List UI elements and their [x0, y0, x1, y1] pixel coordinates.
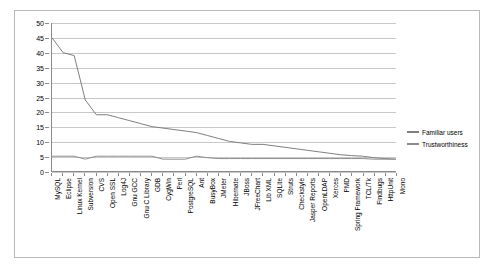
plot-area — [51, 23, 396, 172]
legend-color-swatch — [407, 131, 419, 133]
x-axis-tick-mark — [385, 173, 386, 176]
y-axis-tick-mark — [45, 83, 49, 84]
y-axis-tick-mark — [45, 172, 49, 173]
series-line — [52, 38, 396, 159]
x-axis-tick-label: Jasper Reports — [309, 178, 316, 222]
x-axis-tick-label: MySQL — [54, 178, 61, 200]
legend-item[interactable]: Familiar users — [407, 127, 487, 137]
x-axis-tick-mark — [296, 173, 297, 176]
x-axis-tick-mark — [374, 173, 375, 176]
x-axis-tick-mark — [96, 173, 97, 176]
x-axis-tick-mark — [229, 173, 230, 176]
x-axis-tick-mark — [140, 173, 141, 176]
y-axis-tick-label: 20 — [36, 109, 44, 116]
x-axis-tick-label: PMD — [343, 178, 350, 192]
y-axis-tick-label: 45 — [36, 34, 44, 41]
x-axis-tick-mark — [251, 173, 252, 176]
x-axis-tick-label: Subversion — [87, 178, 94, 211]
x-axis-tick-mark — [363, 173, 364, 176]
x-axis-tick-label: Ant — [198, 178, 205, 188]
x-axis-tick-label: Lib XML — [265, 178, 272, 202]
x-axis-tick-label: TCL/Tk — [365, 178, 372, 199]
y-axis-tick-label: 10 — [36, 139, 44, 146]
legend-item[interactable]: Trustworthiness — [407, 139, 487, 149]
y-axis-tick-mark — [45, 53, 49, 54]
x-axis-tick-mark — [196, 173, 197, 176]
y-axis-tick-label: 40 — [36, 49, 44, 56]
x-axis-tick-label: Gnu GCC — [131, 178, 138, 207]
y-axis-tick-mark — [45, 23, 49, 24]
x-axis-tick-label: Open SSL — [109, 178, 116, 208]
y-axis: 50454035302520151050 — [15, 23, 49, 172]
x-axis-tick-mark — [162, 173, 163, 176]
x-axis-tick-label: Hibernate — [232, 178, 239, 206]
chart-legend: Familiar usersTrustworthiness — [407, 127, 487, 151]
x-axis-tick-label: JBoss — [243, 178, 250, 196]
y-axis-tick-label: 30 — [36, 79, 44, 86]
legend-label: Familiar users — [422, 129, 463, 136]
x-axis-tick-label: CygWin — [165, 178, 172, 201]
x-axis-tick-label: Linux Kernel — [76, 178, 83, 214]
x-axis-tick-mark — [329, 173, 330, 176]
y-axis-tick-mark — [45, 157, 49, 158]
x-axis: MySQLEclipseLinux KernelSubversionCVSOpe… — [51, 173, 396, 253]
x-axis-tick-label: Checkstyle — [298, 178, 305, 210]
x-axis-tick-label: HttpUnit — [387, 178, 394, 201]
y-axis-tick-label: 5 — [40, 154, 44, 161]
legend-color-swatch — [407, 143, 419, 145]
x-axis-tick-label: Mono — [399, 178, 406, 194]
x-axis-tick-mark — [318, 173, 319, 176]
x-axis-tick-mark — [340, 173, 341, 176]
y-axis-tick-mark — [45, 142, 49, 143]
x-axis-tick-label: OpenLDAP — [321, 178, 328, 211]
x-axis-tick-mark — [240, 173, 241, 176]
x-axis-tick-mark — [351, 173, 352, 176]
x-axis-tick-label: CVS — [98, 178, 105, 191]
x-axis-tick-mark — [173, 173, 174, 176]
x-axis-tick-label: Gnu C Library — [143, 178, 150, 218]
y-axis-tick-label: 50 — [36, 20, 44, 27]
y-axis-tick-label: 25 — [36, 94, 44, 101]
x-axis-tick-label: Struts — [287, 178, 294, 195]
y-axis-tick-mark — [45, 127, 49, 128]
legend-label: Trustworthiness — [422, 141, 468, 148]
y-axis-tick-mark — [45, 112, 49, 113]
series-line — [52, 156, 396, 159]
series-lines — [52, 23, 396, 171]
y-axis-tick-label: 15 — [36, 124, 44, 131]
x-axis-tick-mark — [151, 173, 152, 176]
x-axis-tick-label: SQLite — [276, 178, 283, 198]
x-axis-tick-mark — [274, 173, 275, 176]
x-axis-tick-mark — [285, 173, 286, 176]
x-axis-tick-label: JFreeChart — [254, 178, 261, 211]
x-axis-tick-label: JMeter — [220, 178, 227, 198]
y-axis-tick-label: 0 — [40, 169, 44, 176]
x-axis-tick-label: Spring Framework — [354, 178, 361, 231]
x-axis-tick-mark — [118, 173, 119, 176]
x-axis-tick-mark — [207, 173, 208, 176]
x-axis-tick-label: Perl — [176, 178, 183, 190]
y-axis-tick-mark — [45, 38, 49, 39]
x-axis-tick-mark — [307, 173, 308, 176]
x-axis-tick-mark — [218, 173, 219, 176]
y-axis-tick-mark — [45, 68, 49, 69]
x-axis-tick-mark — [107, 173, 108, 176]
x-axis-tick-mark — [185, 173, 186, 176]
x-axis-tick-label: Findbugs — [376, 178, 383, 205]
x-axis-tick-label: Eclipse — [65, 178, 72, 199]
x-axis-tick-mark — [396, 173, 397, 176]
x-axis-tick-mark — [262, 173, 263, 176]
x-axis-tick-label: PostgreSQL — [187, 178, 194, 213]
x-axis-tick-mark — [51, 173, 52, 176]
y-axis-tick-label: 35 — [36, 64, 44, 71]
x-axis-tick-mark — [84, 173, 85, 176]
x-axis-tick-mark — [129, 173, 130, 176]
y-axis-tick-mark — [45, 98, 49, 99]
x-axis-tick-label: Xerces — [332, 178, 339, 198]
x-axis-tick-mark — [62, 173, 63, 176]
chart-container: 50454035302520151050 MySQLEclipseLinux K… — [14, 10, 480, 258]
x-axis-tick-mark — [73, 173, 74, 176]
x-axis-tick-label: BusyBox — [209, 178, 216, 204]
x-axis-tick-label: GDB — [154, 178, 161, 192]
x-axis-tick-label: Log4J — [120, 178, 127, 196]
